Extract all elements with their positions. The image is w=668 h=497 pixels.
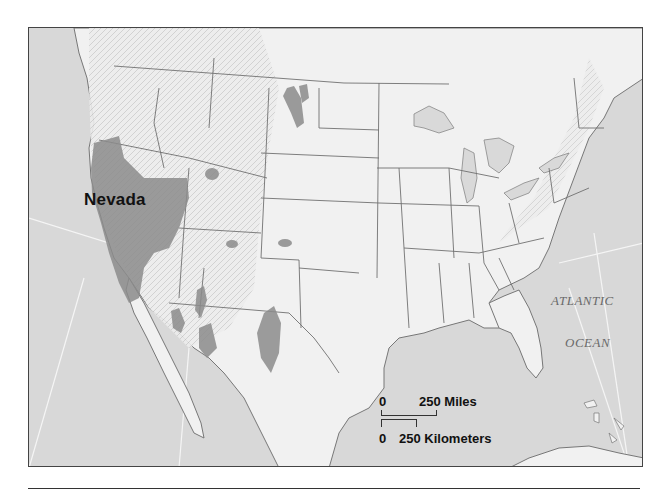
- scale-km-end: 250 Kilometers: [399, 431, 492, 446]
- scale-bar-miles: [381, 410, 437, 416]
- wyoming-basin: [205, 168, 219, 180]
- scale-km-start: 0: [379, 431, 386, 446]
- map-frame: Nevada ATLANTIC OCEAN 0 250 Miles 0 250 …: [28, 27, 643, 467]
- scale-bar-kilometers: [381, 419, 417, 427]
- colorado-basin: [226, 240, 238, 248]
- bottom-divider: [28, 488, 640, 489]
- relief-map: [29, 28, 643, 467]
- colorado-basin-2: [278, 239, 292, 247]
- atlantic-label: ATLANTIC: [551, 293, 614, 309]
- nevada-label: Nevada: [84, 190, 146, 210]
- ocean-label: OCEAN: [565, 335, 610, 351]
- scale-miles-end: 250 Miles: [419, 394, 477, 409]
- scale-miles-start: 0: [379, 394, 386, 409]
